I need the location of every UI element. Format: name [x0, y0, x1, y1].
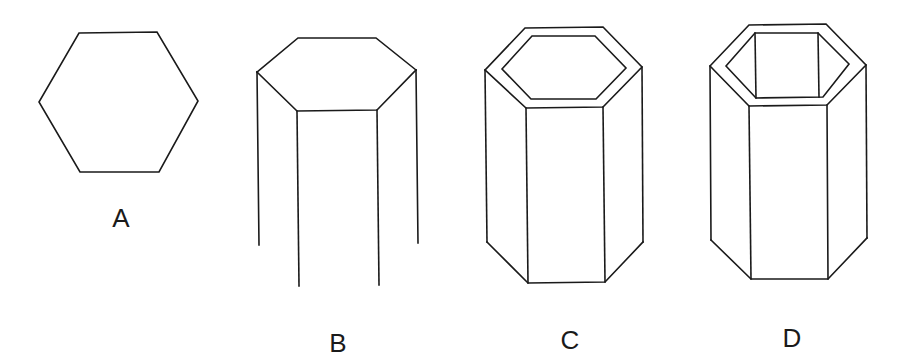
figure-label-b: B	[329, 330, 346, 356]
figure-label-c: C	[561, 327, 580, 353]
figure-b-open-prism	[257, 38, 418, 286]
figure-canvas	[0, 0, 899, 362]
figure-label-a: A	[112, 205, 129, 231]
figure-a-hexagon	[39, 32, 198, 172]
figure-d-hollow-prism-inner-walls	[710, 24, 867, 279]
figure-label-d: D	[783, 325, 802, 351]
figure-c-hollow-prism	[485, 27, 643, 283]
